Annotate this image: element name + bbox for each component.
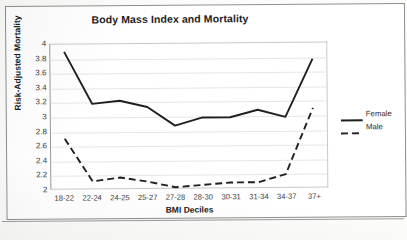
series-line-male (65, 108, 314, 188)
legend-swatch-icon (341, 123, 363, 131)
y-tick-label: 3.8 (35, 54, 46, 63)
plot-area (49, 42, 328, 190)
x-tick-label: 31-34 (249, 192, 269, 201)
chart-title: Body Mass Index and Mortality (5, 11, 335, 26)
x-tick-label: 34-37 (277, 192, 297, 201)
y-tick-label: 3.2 (36, 98, 47, 107)
legend-item-male: Male (341, 120, 401, 133)
scanned-page: Body Mass Index and Mortality Risk-Adjus… (0, 0, 407, 240)
y-tick-label: 3 (42, 112, 47, 121)
legend-label: Male (366, 122, 383, 131)
x-tick-label: 22-24 (82, 193, 102, 202)
series-line-female (64, 50, 313, 127)
y-tick-label: 4 (42, 39, 47, 48)
x-tick-label: 37+ (308, 192, 321, 201)
x-tick-label: 24-25 (110, 193, 130, 202)
y-tick-label: 2.2 (36, 171, 47, 180)
legend-label: Female (366, 109, 392, 118)
y-tick-label: 2.6 (36, 141, 47, 150)
x-tick-label: 27-28 (166, 193, 186, 202)
x-tick-label: 28-30 (194, 192, 214, 201)
legend-item-female: Female (341, 107, 401, 120)
x-axis-title: BMI Deciles (50, 204, 328, 216)
line-chart: Body Mass Index and Mortality Risk-Adjus… (5, 3, 405, 218)
y-tick-label: 3.4 (35, 83, 46, 92)
y-tick-label: 2 (43, 185, 48, 194)
y-tick-label: 3.6 (35, 68, 46, 77)
y-tick-label: 2.4 (36, 156, 47, 165)
x-tick-label: 18-22 (55, 194, 75, 203)
y-axis-ticks: 43.83.63.43.232.82.62.42.22 (19, 44, 47, 190)
legend-swatch-icon (341, 110, 363, 118)
series-lines (50, 43, 327, 190)
y-tick-label: 2.8 (36, 127, 47, 136)
x-tick-label: 25-27 (138, 193, 158, 202)
x-tick-label: 30-31 (221, 192, 241, 201)
chart-legend: FemaleMale (341, 107, 401, 133)
